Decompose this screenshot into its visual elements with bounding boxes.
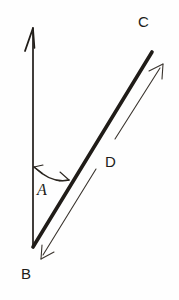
parallel-measure-d xyxy=(41,64,163,259)
angle-arc-a xyxy=(34,165,69,181)
label-d: D xyxy=(105,154,116,169)
diagonal-ray-bc xyxy=(33,52,152,247)
angle-arc-arrowhead-right-upper xyxy=(60,172,69,180)
angle-arc-curve xyxy=(34,167,69,181)
measure-d-arrowhead-bottom-right xyxy=(41,245,42,259)
measure-d-arrowhead-top-left xyxy=(149,64,163,71)
label-c: C xyxy=(138,14,149,29)
vertical-ray xyxy=(25,28,35,247)
measure-d-lower-shaft xyxy=(43,169,96,255)
label-b: B xyxy=(21,266,31,281)
angle-arc-arrowhead-left-upper xyxy=(34,165,43,167)
angle-arc-arrowhead-left-lower xyxy=(34,167,42,173)
vertical-ray-arrowhead-left xyxy=(25,28,33,51)
label-a: A xyxy=(37,182,47,198)
diagram-canvas xyxy=(0,0,179,300)
diagonal-ray-shaft xyxy=(33,52,152,247)
measure-d-arrowhead-top-right xyxy=(162,64,163,79)
vector-angle-diagram: C B A D xyxy=(0,0,179,300)
